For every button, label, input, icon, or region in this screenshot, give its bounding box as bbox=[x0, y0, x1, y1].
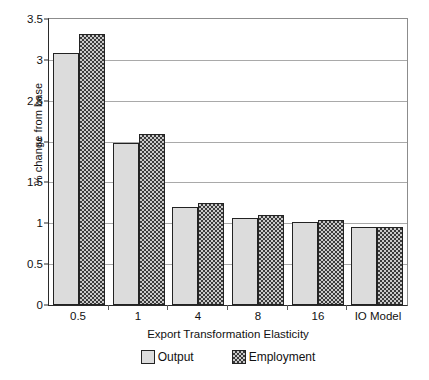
bar-employment[interactable] bbox=[198, 203, 224, 305]
x-axis-tick-label: 8 bbox=[228, 310, 288, 322]
bar-output[interactable] bbox=[172, 207, 198, 305]
legend-swatch-employment bbox=[232, 350, 246, 364]
y-axis-tick-label: 1.5 bbox=[27, 176, 43, 188]
bar-groups bbox=[49, 19, 407, 305]
bar-group bbox=[168, 19, 228, 305]
x-axis-tick-label: 0.5 bbox=[48, 310, 108, 322]
x-axis-tick-label: 1 bbox=[108, 310, 168, 322]
y-axis-tick-label: 0 bbox=[37, 299, 43, 311]
bar-group bbox=[49, 19, 109, 305]
y-axis-tick-label: 0.5 bbox=[27, 258, 43, 270]
x-axis-tick-label: 16 bbox=[288, 310, 348, 322]
x-axis-tick-label: IO Model bbox=[348, 310, 408, 322]
bar-employment[interactable] bbox=[318, 220, 344, 305]
x-axis-tick-labels: 0.514816IO Model bbox=[48, 310, 408, 322]
chart-legend: OutputEmployment bbox=[48, 350, 408, 364]
y-axis-tick-label: 3 bbox=[37, 54, 43, 66]
legend-entry[interactable]: Employment bbox=[232, 350, 316, 364]
y-axis-tick-label: 2.5 bbox=[27, 95, 43, 107]
bar-group bbox=[288, 19, 348, 305]
bar-output[interactable] bbox=[232, 218, 258, 305]
y-axis-tick-label: 1 bbox=[37, 217, 43, 229]
plot-area: 00.511.522.533.5 bbox=[48, 18, 408, 306]
y-axis-tick-label: 3.5 bbox=[27, 13, 43, 25]
x-axis-tick-label: 4 bbox=[168, 310, 228, 322]
legend-swatch-output bbox=[141, 350, 155, 364]
bar-output[interactable] bbox=[53, 53, 79, 305]
bar-group bbox=[347, 19, 407, 305]
bar-output[interactable] bbox=[292, 222, 318, 305]
legend-label: Output bbox=[158, 350, 194, 364]
bar-group bbox=[228, 19, 288, 305]
bar-employment[interactable] bbox=[139, 134, 165, 305]
legend-label: Employment bbox=[249, 350, 316, 364]
bar-output[interactable] bbox=[351, 227, 377, 305]
x-axis-title: Export Transformation Elasticity bbox=[48, 328, 408, 340]
chart-figure: % change from base 00.511.522.533.5 0.51… bbox=[0, 0, 429, 380]
y-axis-tick-label: 2 bbox=[37, 136, 43, 148]
bar-group bbox=[109, 19, 169, 305]
bar-output[interactable] bbox=[113, 143, 139, 305]
legend-entry[interactable]: Output bbox=[141, 350, 194, 364]
bar-employment[interactable] bbox=[79, 34, 105, 305]
bar-employment[interactable] bbox=[377, 227, 403, 305]
bar-employment[interactable] bbox=[258, 215, 284, 305]
